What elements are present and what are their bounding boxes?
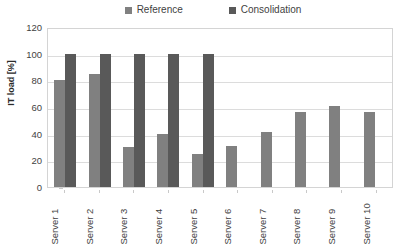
x-axis-tick-mark bbox=[64, 190, 65, 193]
bar-group bbox=[186, 29, 220, 187]
x-axis-tick-mark bbox=[272, 190, 273, 193]
bar-consolidation[interactable] bbox=[100, 54, 111, 187]
x-axis-tick-mark bbox=[237, 190, 238, 193]
y-axis-tick-label: 40 bbox=[16, 130, 42, 140]
bar-group bbox=[117, 29, 151, 187]
y-axis-tick-label: 80 bbox=[16, 77, 42, 87]
legend-item-reference: Reference bbox=[125, 5, 183, 15]
x-axis-tick-mark bbox=[203, 190, 204, 193]
plot-area bbox=[47, 28, 393, 188]
x-axis-tick-mark bbox=[306, 190, 307, 193]
x-axis-tick-cell: Server 4 bbox=[151, 190, 186, 246]
x-axis-tick-cell: Server 7 bbox=[255, 190, 290, 246]
bar-consolidation[interactable] bbox=[203, 54, 214, 187]
x-axis-tick-mark bbox=[341, 190, 342, 193]
bar-reference[interactable] bbox=[226, 146, 237, 187]
x-axis-tick-mark bbox=[99, 190, 100, 193]
x-axis-tick-cell: Server 8 bbox=[289, 190, 324, 246]
x-axis-tick-labels: Server 1Server 2Server 3Server 4Server 5… bbox=[47, 190, 393, 246]
x-axis-tick-label: Server 10 bbox=[361, 203, 371, 244]
bar-group bbox=[220, 29, 254, 187]
x-axis-tick-cell: Server 1 bbox=[47, 190, 82, 246]
legend-label-consolidation: Consolidation bbox=[241, 5, 302, 15]
x-axis-tick-label: Server 5 bbox=[188, 208, 198, 244]
legend-label-reference: Reference bbox=[137, 5, 183, 15]
x-axis-tick-label: Server 8 bbox=[292, 208, 302, 244]
x-axis-tick-label: Server 4 bbox=[154, 208, 164, 244]
y-axis-tick-label: 0 bbox=[16, 183, 42, 193]
y-axis-title: IT load [%] bbox=[6, 53, 16, 113]
bar-chart: Reference Consolidation IT load [%] 1201… bbox=[0, 0, 402, 246]
bar-group bbox=[254, 29, 288, 187]
y-axis-tick-label: 60 bbox=[16, 103, 42, 113]
bar-consolidation[interactable] bbox=[168, 54, 179, 187]
y-axis-tick-mark bbox=[59, 188, 63, 189]
bar-group bbox=[358, 29, 392, 187]
x-axis-tick-label: Server 9 bbox=[327, 208, 337, 244]
chart-legend: Reference Consolidation bbox=[0, 2, 402, 18]
y-axis-tick-labels: 120100806040200 bbox=[16, 28, 42, 188]
x-axis-tick-label: Server 6 bbox=[223, 208, 233, 244]
bar-group bbox=[323, 29, 357, 187]
legend-item-consolidation: Consolidation bbox=[229, 5, 302, 15]
y-axis-tick-label: 20 bbox=[16, 157, 42, 167]
x-axis-tick-cell: Server 6 bbox=[220, 190, 255, 246]
x-axis-tick-cell: Server 5 bbox=[185, 190, 220, 246]
x-axis-tick-label: Server 3 bbox=[119, 208, 129, 244]
bar-group bbox=[289, 29, 323, 187]
y-axis-tick-label: 120 bbox=[16, 23, 42, 33]
y-axis-tick-label: 100 bbox=[16, 50, 42, 60]
bar-group bbox=[48, 29, 82, 187]
bar-reference[interactable] bbox=[261, 132, 272, 187]
x-axis-tick-label: Server 1 bbox=[50, 208, 60, 244]
x-axis-tick-mark bbox=[133, 190, 134, 193]
bar-group bbox=[82, 29, 116, 187]
bar-reference[interactable] bbox=[54, 80, 65, 187]
bar-reference[interactable] bbox=[192, 154, 203, 187]
x-axis-tick-cell: Server 2 bbox=[82, 190, 117, 246]
x-axis-tick-cell: Server 10 bbox=[358, 190, 393, 246]
x-axis-tick-mark bbox=[168, 190, 169, 193]
x-axis-tick-cell: Server 3 bbox=[116, 190, 151, 246]
bar-consolidation[interactable] bbox=[65, 54, 76, 187]
bar-reference[interactable] bbox=[123, 147, 134, 187]
bar-group bbox=[151, 29, 185, 187]
square-swatch-icon bbox=[229, 7, 236, 14]
bar-reference[interactable] bbox=[157, 134, 168, 187]
bar-reference[interactable] bbox=[329, 106, 340, 187]
x-axis-tick-label: Server 2 bbox=[84, 208, 94, 244]
x-axis-tick-label: Server 7 bbox=[257, 208, 267, 244]
bar-consolidation[interactable] bbox=[134, 54, 145, 187]
x-axis-tick-cell: Server 9 bbox=[324, 190, 359, 246]
bar-reference[interactable] bbox=[295, 112, 306, 187]
bar-reference[interactable] bbox=[89, 74, 100, 187]
square-swatch-icon bbox=[125, 7, 132, 14]
x-axis-tick-mark bbox=[376, 190, 377, 193]
bars-layer bbox=[48, 29, 392, 187]
bar-reference[interactable] bbox=[364, 112, 375, 187]
